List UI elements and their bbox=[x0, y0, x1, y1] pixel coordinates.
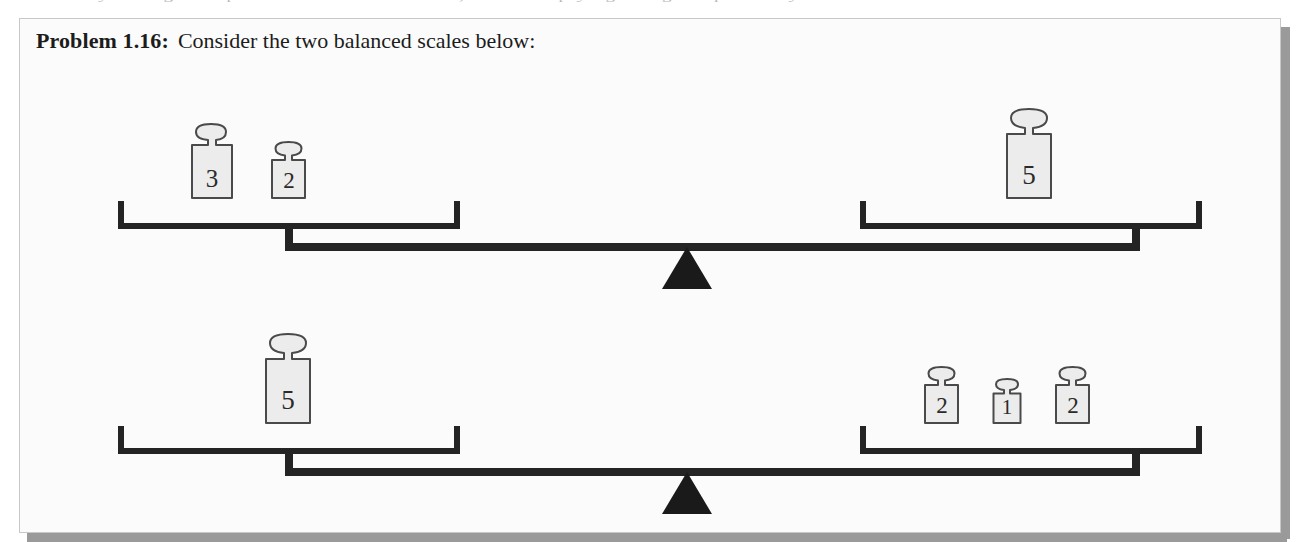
pan-lip-left bbox=[118, 201, 124, 229]
problem-box-shadow-bottom bbox=[27, 533, 1287, 542]
weight-shape bbox=[263, 141, 315, 199]
weight-5[interactable]: 5 bbox=[993, 108, 1065, 199]
weight-1[interactable]: 1 bbox=[985, 378, 1029, 424]
pan-lip-left bbox=[118, 426, 124, 454]
weight-2-a[interactable]: 2 bbox=[916, 366, 968, 424]
weight-shape bbox=[993, 108, 1065, 199]
scale-2-right-post bbox=[1132, 448, 1140, 474]
pan-tray bbox=[860, 448, 1202, 454]
weight-2-b[interactable]: 2 bbox=[1047, 366, 1099, 424]
problem-number-label: Problem 1.16: bbox=[36, 28, 169, 53]
problem-box: Problem 1.16:Consider the two balanced s… bbox=[19, 18, 1281, 533]
scale-1-left-post bbox=[285, 223, 293, 249]
scale-2-left-post bbox=[285, 448, 293, 474]
scale-1-beam bbox=[285, 243, 1140, 251]
balance-scales-figure: 3 2 5 bbox=[20, 65, 1280, 531]
pan-lip-right bbox=[454, 426, 460, 454]
weight-shape bbox=[916, 366, 968, 424]
problem-box-shadow-right bbox=[1281, 27, 1290, 539]
partial-text-line-above: y through the problem to its conclusion,… bbox=[0, 0, 1315, 14]
balance-scale-2: 5 2 1 bbox=[20, 320, 1280, 530]
scale-1-fulcrum bbox=[662, 247, 712, 289]
pan-lip-right bbox=[1196, 426, 1202, 454]
scale-1-right-pan bbox=[860, 199, 1202, 229]
pan-tray bbox=[860, 223, 1202, 229]
scale-2-right-pan bbox=[860, 424, 1202, 454]
weight-2[interactable]: 2 bbox=[263, 141, 315, 199]
balance-scale-1: 3 2 5 bbox=[20, 95, 1280, 305]
weight-5[interactable]: 5 bbox=[252, 333, 324, 424]
problem-statement-text: Consider the two balanced scales below: bbox=[178, 28, 535, 53]
weight-shape bbox=[985, 378, 1029, 424]
problem-header: Problem 1.16:Consider the two balanced s… bbox=[36, 26, 535, 56]
weight-shape bbox=[1047, 366, 1099, 424]
pan-lip-right bbox=[454, 201, 460, 229]
scale-2-fulcrum bbox=[662, 472, 712, 514]
pan-lip-left bbox=[860, 426, 866, 454]
weight-3[interactable]: 3 bbox=[181, 123, 243, 199]
pan-lip-right bbox=[1196, 201, 1202, 229]
scale-1-right-post bbox=[1132, 223, 1140, 249]
scale-2-beam bbox=[285, 468, 1140, 476]
pan-lip-left bbox=[860, 201, 866, 229]
weight-shape bbox=[181, 123, 243, 199]
weight-shape bbox=[252, 333, 324, 424]
